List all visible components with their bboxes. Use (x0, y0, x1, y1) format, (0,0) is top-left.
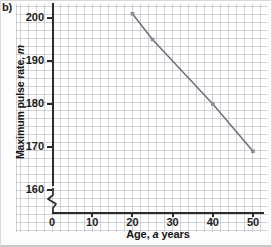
part-label: b) (2, 1, 12, 13)
page-edge-top (0, 0, 272, 1)
page-edge-right (271, 0, 272, 247)
figure-page: b) 160170180190200 01020304050 Maximum p… (0, 0, 272, 247)
graph-paper-grid (16, 4, 268, 232)
page-edge-left (0, 0, 1, 247)
